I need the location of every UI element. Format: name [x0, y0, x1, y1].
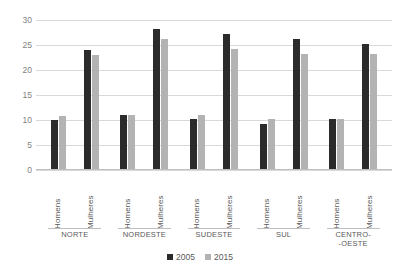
- region-label-wrap: NORTE: [40, 228, 110, 254]
- bar-cluster: [223, 20, 238, 170]
- x-axis-region-labels: NORTENORDESTESUDESTESULCENTRO- -OESTE: [36, 228, 392, 254]
- x-label-cluster: Mulheres: [84, 171, 99, 229]
- y-axis-tick-label: 5: [2, 141, 32, 150]
- bar-cluster: [51, 20, 66, 170]
- bar-2005[interactable]: [51, 120, 58, 170]
- legend-swatch-icon: [167, 254, 173, 260]
- y-axis-tick-label: 10: [2, 116, 32, 125]
- x-label-cluster: Homens: [190, 171, 205, 229]
- bars-layer: [36, 20, 392, 170]
- region-label-group: HomensMulheres: [110, 171, 180, 229]
- bar-cluster: [362, 20, 377, 170]
- legend-item[interactable]: 2005: [167, 253, 195, 262]
- region-label-group: HomensMulheres: [249, 171, 319, 229]
- chart-legend: 20052015: [0, 253, 400, 262]
- bar-2015[interactable]: [337, 119, 344, 171]
- region-name: CENTRO- -OESTE: [335, 231, 371, 248]
- y-axis-tick-label: 30: [2, 16, 32, 25]
- region-rule: [118, 228, 171, 229]
- x-label-cluster: Homens: [260, 171, 275, 229]
- bar-2005[interactable]: [120, 115, 127, 171]
- bar-cluster: [329, 20, 344, 170]
- x-axis-sex-labels: HomensMulheresHomensMulheresHomensMulher…: [36, 171, 392, 229]
- region-rule: [257, 228, 310, 229]
- region-label-group: HomensMulheres: [179, 171, 249, 229]
- region-label-wrap: SUL: [249, 228, 319, 254]
- bar-2015[interactable]: [268, 119, 275, 170]
- bar-2015[interactable]: [128, 115, 135, 170]
- x-axis-label: Homens: [263, 171, 271, 229]
- bar-cluster: [260, 20, 275, 170]
- region-label-group: HomensMulheres: [318, 171, 388, 229]
- y-axis-tick-label: 15: [2, 91, 32, 100]
- region-group: [110, 20, 180, 170]
- y-axis-tick-label: 0: [2, 166, 32, 175]
- bar-2015[interactable]: [301, 54, 308, 171]
- x-axis-label: Mulheres: [296, 171, 304, 229]
- x-axis-label: Homens: [333, 171, 341, 229]
- bar-2005[interactable]: [260, 124, 267, 171]
- bar-cluster: [153, 20, 168, 170]
- x-axis-label: Mulheres: [87, 171, 95, 229]
- y-axis-tick-label: 25: [2, 41, 32, 50]
- region-name: NORTE: [61, 231, 88, 240]
- y-axis-tick-label: 20: [2, 66, 32, 75]
- bar-2005[interactable]: [362, 44, 369, 171]
- x-axis-label: Mulheres: [157, 171, 165, 229]
- region-group: [40, 20, 110, 170]
- x-axis-label: Homens: [193, 171, 201, 229]
- bar-2005[interactable]: [223, 34, 230, 170]
- region-group: [249, 20, 319, 170]
- bar-2005[interactable]: [293, 39, 300, 171]
- legend-label: 2015: [214, 253, 233, 262]
- bar-2015[interactable]: [231, 49, 238, 170]
- region-rule: [188, 228, 241, 229]
- bar-chart: 302520151050 HomensMulheresHomensMulhere…: [0, 0, 400, 275]
- bar-2005[interactable]: [329, 119, 336, 171]
- region-group: [318, 20, 388, 170]
- region-name: SUDESTE: [196, 231, 233, 240]
- bar-2015[interactable]: [370, 54, 377, 171]
- x-label-cluster: Homens: [120, 171, 135, 229]
- region-name: SUL: [276, 231, 291, 240]
- region-label-wrap: CENTRO- -OESTE: [318, 228, 388, 254]
- x-label-cluster: Mulheres: [362, 171, 377, 229]
- bar-cluster: [84, 20, 99, 170]
- region-label-group: HomensMulheres: [40, 171, 110, 229]
- bar-cluster: [120, 20, 135, 170]
- region-label-wrap: SUDESTE: [179, 228, 249, 254]
- x-label-cluster: Mulheres: [293, 171, 308, 229]
- bar-2015[interactable]: [92, 55, 99, 171]
- legend-item[interactable]: 2015: [205, 253, 233, 262]
- bar-cluster: [190, 20, 205, 170]
- region-name: NORDESTE: [123, 231, 166, 240]
- plot-area: [36, 20, 392, 170]
- legend-swatch-icon: [205, 254, 211, 260]
- x-label-cluster: Homens: [329, 171, 344, 229]
- x-label-cluster: Homens: [51, 171, 66, 229]
- bar-cluster: [293, 20, 308, 170]
- x-label-cluster: Mulheres: [223, 171, 238, 229]
- region-rule: [48, 228, 101, 229]
- x-label-cluster: Mulheres: [153, 171, 168, 229]
- region-rule: [327, 228, 380, 229]
- bar-2015[interactable]: [198, 115, 205, 171]
- bar-2005[interactable]: [84, 50, 91, 170]
- x-axis-label: Mulheres: [226, 171, 234, 229]
- x-axis-label: Mulheres: [366, 171, 374, 229]
- x-axis-label: Homens: [54, 171, 62, 229]
- x-axis-label: Homens: [124, 171, 132, 229]
- bar-2005[interactable]: [190, 119, 197, 170]
- region-group: [179, 20, 249, 170]
- bar-2015[interactable]: [161, 39, 168, 170]
- x-axis-baseline: [36, 169, 392, 170]
- legend-label: 2005: [176, 253, 195, 262]
- bar-2005[interactable]: [153, 29, 160, 170]
- region-label-wrap: NORDESTE: [110, 228, 180, 254]
- bar-2015[interactable]: [59, 116, 66, 171]
